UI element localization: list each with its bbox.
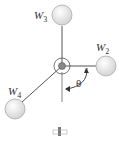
theta-arrowhead-top-icon: [84, 68, 89, 73]
ball-w4: [5, 99, 25, 119]
label-w3: W3: [34, 10, 47, 24]
diagram-canvas: [0, 0, 119, 144]
ball-w2: [96, 56, 116, 76]
ball-w3: [52, 5, 72, 25]
label-w4: W4: [8, 86, 21, 100]
label-w2: W2: [96, 42, 109, 56]
shaft-fragment-icon: [58, 127, 61, 136]
label-theta: θ: [76, 78, 81, 89]
theta-arrowhead-left-icon: [65, 86, 70, 92]
hub-center: [59, 63, 66, 70]
